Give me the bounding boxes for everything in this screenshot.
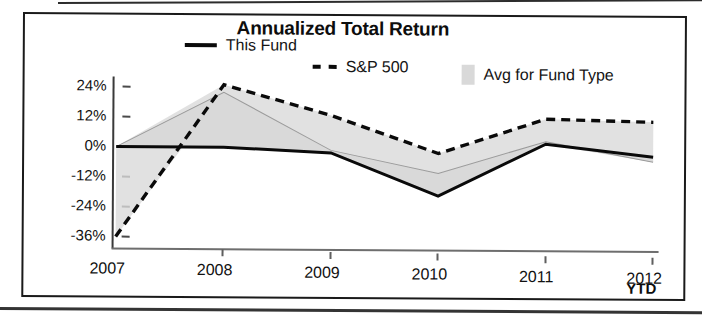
x-axis-tick-mark xyxy=(437,254,439,261)
x-axis-tick-label: 2008 xyxy=(197,261,233,279)
chart-inner: Annualized Total Return This Fund S&P 50… xyxy=(23,14,685,299)
legend-item-this-fund: This Fund xyxy=(185,36,297,55)
x-axis-tick-label: 2011 xyxy=(519,268,554,286)
x-axis-tick-mark xyxy=(544,256,546,263)
x-axis-labels: 200720082009201020112012 xyxy=(23,257,683,295)
y-axis-tick-label: 0% xyxy=(84,136,106,153)
page-bottom-rule xyxy=(0,307,702,314)
x-axis-ytd-suffix: YTD xyxy=(626,280,656,297)
dashed-line-marker-icon xyxy=(313,65,337,69)
y-axis-tick-label: -12% xyxy=(71,166,106,183)
legend-label-this-fund: This Fund xyxy=(226,36,297,54)
y-axis-labels: 24%12%0%-12%-24%-36% xyxy=(34,76,107,248)
y-axis-tick-label: -36% xyxy=(71,226,106,243)
x-axis-tick-mark xyxy=(222,250,224,257)
legend-label-sp500: S&P 500 xyxy=(346,58,409,76)
x-axis-tick-mark xyxy=(651,258,653,265)
x-axis-tick-label: 2007 xyxy=(89,259,125,277)
y-axis-tick-label: -24% xyxy=(71,196,106,213)
y-axis-tick-label: 24% xyxy=(76,76,106,93)
x-axis-tick-label: 2010 xyxy=(412,266,448,284)
chart-frame: Annualized Total Return This Fund S&P 50… xyxy=(21,12,687,301)
plot-area xyxy=(112,77,658,250)
solid-line-marker-icon xyxy=(185,43,217,47)
x-axis-tick-mark xyxy=(329,252,331,259)
chart-title: Annualized Total Return xyxy=(13,16,673,42)
x-axis-tick-label: 2009 xyxy=(304,264,340,282)
y-axis-tick-label: 12% xyxy=(76,106,106,123)
legend-item-sp500: S&P 500 xyxy=(313,58,409,77)
page-top-rule xyxy=(58,0,702,4)
